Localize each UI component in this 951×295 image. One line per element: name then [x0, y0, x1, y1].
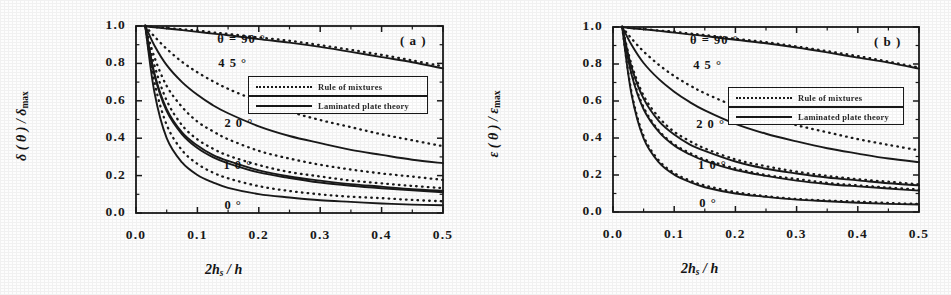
y-tick-label: 1.0 — [74, 17, 126, 33]
y-axis-title-sub-b: max — [492, 91, 502, 108]
x-axis-title-sub-a: s — [220, 268, 224, 278]
x-tick-label: 0.2 — [233, 227, 285, 243]
legend-label-rule-of-mixtures-b: Rule of mixtures — [798, 93, 862, 103]
y-tick-label: 1.0 — [551, 18, 603, 34]
x-tick-label: 0.5 — [893, 226, 945, 242]
x-axis-title-b: 2hs / h — [681, 261, 718, 277]
x-tick-label: 0.4 — [356, 227, 408, 243]
legend-swatch-dotted-a — [256, 81, 312, 93]
y-tick-label: 0.0 — [551, 203, 603, 219]
x-tick-label: 0.4 — [832, 226, 884, 242]
legend-entry-laminated-plate-theory-b: Laminated plate theory — [729, 107, 903, 126]
x-axis-title-pre-a: 2 — [205, 262, 212, 277]
legend-entry-rule-of-mixtures-b: Rule of mixtures — [729, 88, 903, 107]
legend-label-laminated-plate-theory-a: Laminated plate theory — [318, 101, 409, 111]
x-axis-title-post-a: / h — [227, 262, 242, 277]
chart-panel-b: ε ( θ ) / εmax 2hs / h ( b ) Rule of mix… — [476, 0, 951, 295]
figure-root: δ ( θ ) / δmax 2hs / h ( a ) Rule of mix… — [0, 0, 951, 295]
x-axis-title-a: 2hs / h — [205, 262, 242, 278]
curve-annotation: θ = 90 ° — [217, 32, 266, 47]
y-tick-label: 0.4 — [74, 129, 126, 145]
legend-swatch-dotted-b — [736, 92, 792, 104]
curve-90-solid — [145, 26, 443, 68]
legend-swatch-solid-b — [736, 111, 792, 123]
curve-annotation: 4 5 ° — [218, 56, 247, 71]
y-axis-title-a: δ ( θ ) / δmax — [14, 91, 30, 161]
curve-annotation: 1 0 ° — [223, 158, 252, 173]
legend-entry-rule-of-mixtures-a: Rule of mixtures — [249, 77, 427, 96]
y-tick-label: 0.8 — [74, 54, 126, 70]
x-tick-label: 0.0 — [110, 227, 162, 243]
x-axis-title-post-b: / h — [703, 261, 718, 276]
x-tick-label: 0.1 — [648, 226, 700, 242]
x-axis-title-sub-b: s — [696, 267, 700, 277]
y-tick-label: 0.2 — [551, 166, 603, 182]
y-axis-title-main-a: δ ( θ ) / δ — [14, 109, 29, 161]
y-tick-label: 0.4 — [551, 129, 603, 145]
x-tick-label: 0.1 — [171, 227, 223, 243]
x-tick-label: 0.5 — [417, 227, 469, 243]
y-tick-label: 0.6 — [74, 92, 126, 108]
legend-label-laminated-plate-theory-b: Laminated plate theory — [798, 112, 889, 122]
legend-a: Rule of mixtures Laminated plate theory — [248, 76, 428, 114]
y-tick-label: 0.8 — [551, 55, 603, 71]
curve-annotation: 1 0 ° — [698, 158, 727, 173]
x-tick-label: 0.3 — [771, 226, 823, 242]
y-tick-label: 0.6 — [551, 92, 603, 108]
curve-annotation: 0 ° — [699, 196, 716, 211]
x-axis-title-h-b: h — [688, 261, 696, 276]
y-axis-title-main-b: ε ( θ ) / ε — [486, 108, 501, 157]
y-tick-label: 0.2 — [74, 167, 126, 183]
x-tick-label: 0.0 — [587, 226, 639, 242]
x-axis-title-pre-b: 2 — [681, 261, 688, 276]
x-tick-label: 0.3 — [294, 227, 346, 243]
legend-label-rule-of-mixtures-a: Rule of mixtures — [318, 82, 382, 92]
y-axis-title-sub-a: max — [20, 91, 30, 108]
curve-annotation: 2 0 ° — [696, 117, 725, 132]
curve-annotation: 4 5 ° — [693, 58, 722, 73]
legend-entry-laminated-plate-theory-a: Laminated plate theory — [249, 96, 427, 115]
x-tick-label: 0.2 — [709, 226, 761, 242]
chart-panel-a: δ ( θ ) / δmax 2hs / h ( a ) Rule of mix… — [0, 0, 475, 295]
panel-label-b: ( b ) — [874, 34, 901, 50]
legend-b: Rule of mixtures Laminated plate theory — [728, 87, 904, 125]
x-axis-title-h-a: h — [212, 262, 220, 277]
panel-label-a: ( a ) — [400, 33, 427, 49]
y-tick-label: 0.0 — [74, 204, 126, 220]
legend-swatch-solid-a — [256, 100, 312, 112]
curve-annotation: 2 0 ° — [224, 116, 253, 131]
curve-annotation: 0 ° — [224, 198, 241, 213]
curve-annotation: θ = 90 ° — [690, 33, 739, 48]
y-axis-title-b: ε ( θ ) / εmax — [486, 91, 502, 158]
